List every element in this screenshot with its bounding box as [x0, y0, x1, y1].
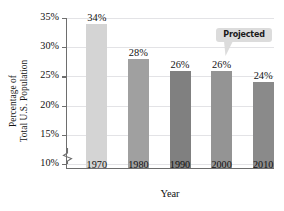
- x-axis-tick-label: 1990: [158, 159, 202, 170]
- bar: 26%: [211, 71, 232, 168]
- y-axis-tick: 25%: [62, 76, 67, 77]
- bar: 24%: [253, 82, 274, 168]
- y-axis-tick-label: 20%: [40, 99, 59, 110]
- y-axis-tick: 15%: [62, 135, 67, 136]
- y-axis-tick: 20%: [62, 106, 67, 107]
- y-axis-tick-label: 15%: [40, 128, 59, 139]
- bar-value-label: 26%: [170, 59, 189, 70]
- bar-value-label: 34%: [87, 12, 106, 23]
- y-axis-tick: 10%: [62, 164, 67, 165]
- y-axis-tick: 35%: [62, 18, 67, 19]
- x-axis-tick-label: 1980: [116, 159, 160, 170]
- bar: 34%: [86, 24, 107, 168]
- bar-value-label: 26%: [212, 59, 231, 70]
- y-axis-line: [66, 18, 67, 168]
- y-axis-tick-label: 35%: [40, 11, 59, 22]
- x-axis-title: Year: [66, 188, 274, 199]
- projected-callout-tail: [224, 41, 240, 57]
- bar: 28%: [128, 59, 149, 168]
- axis-break-icon: [62, 148, 73, 164]
- y-axis-tick-label: 10%: [40, 157, 59, 168]
- y-axis-title-line-2: Total U.S. Population: [19, 36, 30, 166]
- x-axis-tick-label: 2000: [200, 159, 244, 170]
- bar-value-label: 28%: [129, 47, 148, 58]
- y-axis-title: Percentage of Total U.S. Population: [8, 36, 40, 166]
- bar-value-label: 24%: [254, 70, 273, 81]
- bar: 26%: [170, 71, 191, 168]
- x-axis-tick-label: 1970: [75, 159, 119, 170]
- y-axis-tick: 30%: [62, 47, 67, 48]
- y-axis-title-line-1: Percentage of: [8, 36, 19, 166]
- y-axis-tick-label: 25%: [40, 69, 59, 80]
- projected-callout: Projected: [216, 28, 272, 43]
- bar-chart: Percentage of Total U.S. Population 35%3…: [0, 0, 284, 211]
- y-axis-tick-label: 30%: [40, 40, 59, 51]
- x-axis-tick-label: 2010: [241, 159, 284, 170]
- projected-callout-label: Projected: [216, 28, 272, 42]
